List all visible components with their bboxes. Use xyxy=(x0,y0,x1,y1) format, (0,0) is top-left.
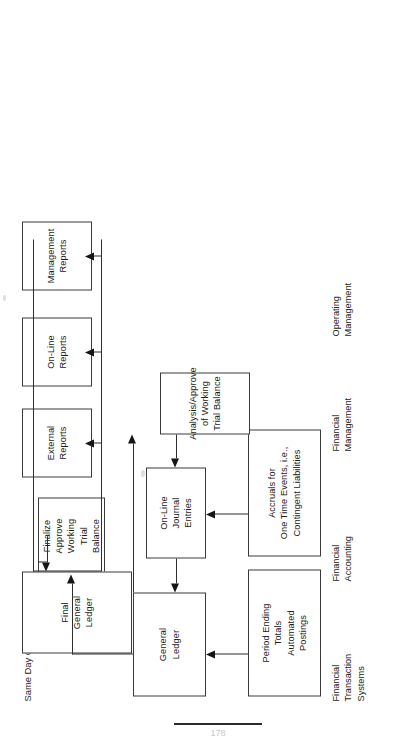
node-finalize-approve-label: Finalize Approve Working Trial Balance xyxy=(41,518,102,553)
arrowhead-period-ending-to-general-ledger xyxy=(206,651,215,659)
footer-page-number: 178 xyxy=(174,728,262,740)
connector-analysis-to-journal-entries xyxy=(176,434,177,458)
scan-speck xyxy=(3,295,6,301)
footer-rule xyxy=(174,723,262,725)
scanned-page: Same Day Close Financial Transaction Sys… xyxy=(0,0,414,741)
rotated-diagram-stage: Same Day Close Financial Transaction Sys… xyxy=(0,0,414,741)
connector-general-ledger-to-analysis xyxy=(133,443,134,592)
node-analysis-approve[interactable]: Analysis/Approve of Working Trial Balanc… xyxy=(160,372,250,434)
lane-label-financial-accounting: Financial Accounting xyxy=(330,461,355,581)
node-general-ledger[interactable]: General Ledger xyxy=(133,592,206,696)
arrowhead-analysis-to-journal-entries xyxy=(171,458,179,467)
arrowhead-general-ledger-to-finalize xyxy=(67,574,75,583)
node-management-reports-label: Management Reports xyxy=(45,228,69,283)
connector-general-ledger-to-finalize-vertical xyxy=(72,653,133,654)
node-general-ledger-label: General Ledger xyxy=(157,627,181,660)
lane-label-operating-management: Operating Management xyxy=(330,216,355,336)
node-accruals-label: Accruals for One Time Events, i.e., Cont… xyxy=(266,446,303,539)
node-final-general-ledger-label: Final General Ledger xyxy=(59,595,96,628)
arrowhead-journal-entries-to-general-ledger xyxy=(171,583,179,592)
node-analysis-approve-label: Analysis/Approve of Working Trial Balanc… xyxy=(187,367,224,440)
node-online-journal-entries-label: On-Line Journal Entries xyxy=(158,496,195,529)
arrowhead-general-ledger-to-analysis xyxy=(128,434,136,443)
node-external-reports-label: External Reports xyxy=(45,425,69,460)
connector-finalize-to-final-ledger-horizontal xyxy=(47,536,48,562)
connector-final-ledger-riser xyxy=(33,570,101,571)
scan-speck-2 xyxy=(141,470,145,477)
node-period-ending-totals[interactable]: Period Ending Totals Automated Postings xyxy=(248,569,321,696)
arrowhead-bus-to-external-reports xyxy=(85,439,94,447)
lane-label-financial-transaction-systems: Financial Transaction Systems xyxy=(330,581,367,701)
node-period-ending-totals-label: Period Ending Totals Automated Postings xyxy=(260,603,309,662)
connector-reports-bus xyxy=(101,239,102,571)
connector-accruals-to-journal-entries xyxy=(215,513,248,514)
arrowhead-accruals-to-journal-entries xyxy=(206,511,215,519)
node-online-reports-label: On-Line Reports xyxy=(45,335,69,368)
node-accruals[interactable]: Accruals for One Time Events, i.e., Cont… xyxy=(248,429,321,556)
arrowhead-bus-to-online-reports xyxy=(85,348,94,356)
connector-finalize-to-final-ledger-vertical xyxy=(38,561,47,562)
connector-journal-entries-to-general-ledger xyxy=(176,558,177,583)
node-final-general-ledger[interactable]: Final General Ledger xyxy=(22,571,132,653)
lane-label-financial-management: Financial Management xyxy=(330,331,355,451)
connector-general-ledger-to-finalize-horizontal xyxy=(72,583,73,654)
connector-period-ending-to-general-ledger xyxy=(215,653,248,654)
connector-final-ledger-to-reports-bus xyxy=(33,239,34,571)
arrowhead-bus-to-management-reports xyxy=(85,252,94,260)
node-online-journal-entries[interactable]: On-Line Journal Entries xyxy=(146,467,206,558)
